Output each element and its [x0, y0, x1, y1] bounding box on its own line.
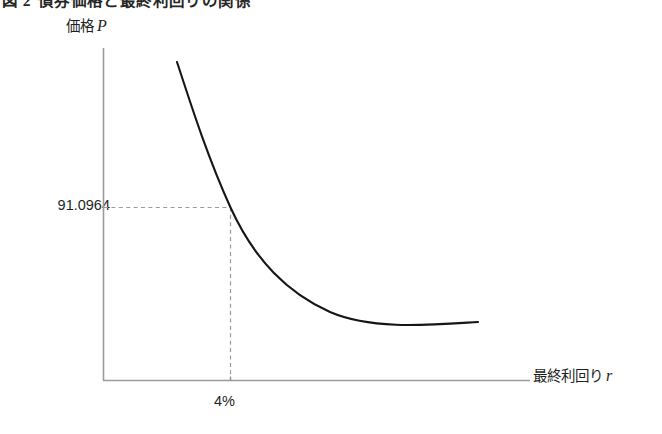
figure-container: 図 2債券価格と最終利回りの関係 価格P 最終利回りr 91.0964 4%	[0, 0, 662, 434]
chart-plot-area	[0, 0, 662, 434]
price-yield-curve	[177, 62, 478, 325]
